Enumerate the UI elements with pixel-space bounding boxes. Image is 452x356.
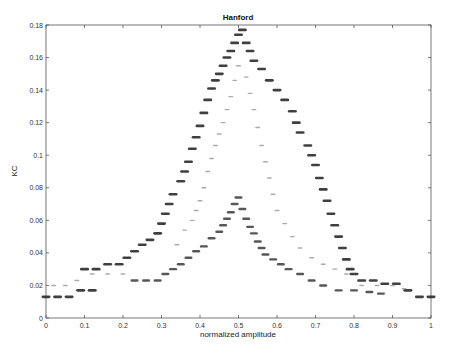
y-tick-label: 0.04 — [29, 249, 43, 256]
data-point — [307, 154, 316, 157]
data-point — [213, 145, 218, 146]
data-point — [190, 220, 195, 221]
data-point — [248, 93, 253, 94]
data-point — [238, 208, 246, 210]
y-tick-label: 0.06 — [29, 217, 43, 224]
data-point — [65, 296, 74, 299]
x-tick-label: 0.5 — [234, 322, 244, 329]
data-point — [246, 226, 254, 228]
data-point — [282, 223, 287, 224]
data-point — [76, 289, 85, 292]
y-tick-label: 0.12 — [29, 119, 43, 126]
data-point — [182, 229, 187, 230]
x-tick-label: 0.1 — [80, 322, 90, 329]
data-point — [249, 60, 258, 63]
x-tick-label: 0.4 — [195, 322, 205, 329]
data-point — [180, 170, 189, 173]
data-point — [377, 292, 385, 294]
data-point — [174, 244, 179, 245]
data-point — [232, 80, 237, 81]
data-point — [236, 65, 241, 66]
data-point — [145, 239, 154, 242]
data-point — [242, 218, 250, 220]
y-tick-label: 0.14 — [29, 87, 43, 94]
data-point — [207, 87, 216, 90]
x-tick-label: 0.2 — [118, 322, 128, 329]
data-point — [219, 224, 227, 226]
data-point — [375, 285, 380, 286]
y-tick-label: 0.1 — [33, 152, 43, 159]
data-point — [350, 289, 358, 291]
x-tick-label: 0 — [44, 322, 48, 329]
scatter-chart: Hanford 00.10.20.30.40.50.60.70.80.91 00… — [0, 0, 452, 356]
data-point — [121, 273, 126, 274]
y-tick-label: 0.02 — [29, 282, 43, 289]
data-point — [321, 264, 326, 265]
data-point — [357, 279, 366, 282]
data-point — [115, 263, 124, 266]
data-point — [246, 50, 255, 53]
data-point — [261, 253, 269, 255]
data-point — [258, 247, 266, 249]
data-point — [227, 211, 235, 213]
data-point — [196, 125, 205, 128]
data-point — [315, 177, 324, 180]
data-point — [188, 147, 197, 150]
data-point — [255, 127, 260, 128]
data-point — [42, 296, 51, 299]
data-point — [296, 131, 305, 134]
chart-title: Hanford — [223, 13, 254, 22]
data-point — [242, 42, 251, 45]
data-point — [199, 112, 208, 115]
data-point — [250, 232, 258, 234]
x-axis-label: normalized amplitude — [200, 330, 277, 339]
data-point — [122, 256, 131, 259]
data-point — [224, 109, 229, 110]
data-point — [346, 268, 355, 271]
data-point — [226, 50, 235, 53]
data-point — [138, 243, 147, 246]
plot-area — [46, 25, 431, 318]
data-point — [280, 99, 289, 102]
data-point — [392, 283, 401, 286]
data-point — [154, 279, 162, 281]
data-point — [303, 144, 312, 147]
data-point — [203, 99, 212, 102]
data-point — [177, 263, 185, 265]
x-tick-label: 0.6 — [272, 322, 282, 329]
data-point — [290, 236, 295, 237]
data-point — [308, 279, 316, 281]
y-tick-label: 0 — [39, 315, 43, 322]
data-point — [285, 268, 293, 270]
data-point — [338, 247, 347, 250]
x-tick-label: 0.9 — [388, 322, 398, 329]
data-point — [415, 296, 424, 299]
data-point — [319, 188, 328, 191]
data-point — [192, 250, 200, 252]
data-point — [332, 268, 337, 269]
data-point — [153, 232, 162, 235]
data-point — [215, 231, 223, 233]
data-point — [219, 64, 228, 67]
y-tick-label: 0.18 — [29, 22, 43, 29]
data-point — [269, 258, 277, 260]
data-point — [335, 289, 343, 291]
data-point — [131, 279, 139, 281]
data-point — [427, 296, 436, 299]
y-tick-label: 0.16 — [29, 54, 43, 61]
data-point — [319, 284, 327, 286]
data-point — [259, 145, 264, 146]
data-point — [201, 187, 206, 188]
data-point — [200, 245, 208, 247]
data-point — [194, 210, 199, 211]
data-point — [157, 222, 166, 225]
data-point — [390, 285, 395, 286]
data-point — [234, 33, 243, 36]
data-point — [251, 109, 256, 110]
data-point — [209, 158, 214, 159]
data-point — [208, 237, 216, 239]
data-point — [231, 203, 239, 205]
data-point — [92, 268, 101, 271]
data-point — [51, 285, 56, 286]
data-point — [161, 213, 170, 216]
